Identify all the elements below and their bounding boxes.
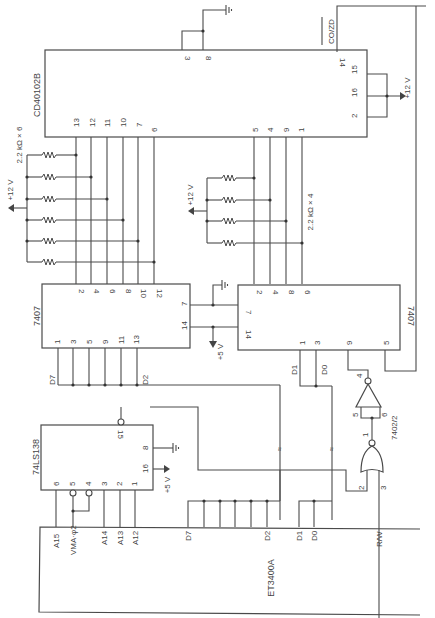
svg-text:6: 6 xyxy=(303,290,312,295)
svg-text:7407: 7407 xyxy=(32,306,42,326)
resistor-label-right: 2.2 kΩ × 4 xyxy=(306,193,315,230)
chip-7407-right: 7407 2 4 8 6 7 14 1 3 9 5 D1 D0 xyxy=(238,285,416,375)
break-mark: ≈ xyxy=(275,447,284,452)
svg-text:7: 7 xyxy=(135,122,144,127)
arrow-icon xyxy=(164,465,170,473)
chip-74ls138: 74LS138 15 8 16 +5 V 6 5 4 3 2 1 xyxy=(31,407,179,527)
svg-text:6: 6 xyxy=(150,127,159,132)
svg-text:3: 3 xyxy=(100,481,109,486)
svg-text:74LS138: 74LS138 xyxy=(31,439,41,475)
ground-icon xyxy=(173,443,179,453)
svg-text:D0: D0 xyxy=(310,530,319,541)
svg-text:7: 7 xyxy=(244,310,253,315)
svg-text:+5 V: +5 V xyxy=(163,476,172,493)
svg-text:VMA·φ2: VMA·φ2 xyxy=(69,525,78,555)
svg-text:13: 13 xyxy=(132,335,141,344)
svg-text:1: 1 xyxy=(297,127,306,132)
svg-text:A12: A12 xyxy=(131,530,140,545)
svg-text:3: 3 xyxy=(69,339,78,344)
gate-label: 7402/2 xyxy=(390,415,399,440)
svg-text:+12 V: +12 V xyxy=(6,179,15,201)
d-lines: ≈ ≈ xyxy=(275,385,336,520)
chip-7407-left: 7407 2 4 6 8 10 12 1 3 5 9 11 13 7 14 D7… xyxy=(32,284,190,385)
svg-text:10: 10 xyxy=(139,289,148,298)
svg-text:D1: D1 xyxy=(295,530,304,541)
svg-text:16: 16 xyxy=(350,88,359,97)
supply-label: +12 V xyxy=(403,77,412,99)
svg-text:D1: D1 xyxy=(290,364,299,375)
svg-text:14: 14 xyxy=(338,58,347,67)
svg-text:2: 2 xyxy=(115,481,124,486)
svg-text:4: 4 xyxy=(92,289,101,294)
svg-text:8: 8 xyxy=(287,290,296,295)
svg-text:12: 12 xyxy=(88,118,97,127)
power-between: +5 V xyxy=(190,280,238,360)
svg-text:2: 2 xyxy=(357,485,366,490)
svg-text:6: 6 xyxy=(108,289,117,294)
svg-text:7407: 7407 xyxy=(406,306,416,326)
svg-text:16: 16 xyxy=(141,464,150,473)
svg-text:D7: D7 xyxy=(184,530,193,541)
resistor-array-left: +12 V 2.2 kΩ × 6 xyxy=(6,126,156,265)
arrow-icon xyxy=(188,207,194,215)
svg-text:8: 8 xyxy=(204,56,213,61)
svg-text:2: 2 xyxy=(255,290,264,295)
svg-text:9: 9 xyxy=(282,127,291,132)
resistor-label-left: 2.2 kΩ × 6 xyxy=(15,126,24,163)
svg-text:2: 2 xyxy=(77,289,86,294)
svg-text:2: 2 xyxy=(350,113,359,118)
svg-text:14: 14 xyxy=(180,321,189,330)
svg-text:7: 7 xyxy=(180,301,189,306)
svg-text:15: 15 xyxy=(350,65,359,74)
d-bus-lower xyxy=(188,470,332,527)
resistor-array-right: +12 V 2.2 kΩ × 4 xyxy=(186,175,315,246)
svg-text:3: 3 xyxy=(379,485,388,490)
chip-label-cd40102b: CD40102B xyxy=(32,73,42,117)
svg-text:A15: A15 xyxy=(52,533,61,548)
svg-text:4: 4 xyxy=(271,290,280,295)
svg-text:3: 3 xyxy=(313,340,322,345)
svg-text:1: 1 xyxy=(298,340,307,345)
arrow-icon xyxy=(8,204,14,212)
svg-text:D2: D2 xyxy=(263,530,272,541)
circuit-schematic: CD40102B 3 8 14 CO/ZD 15 16 2 +12 V 13 1… xyxy=(0,0,435,618)
cpu-et3400a: A15 VMA·φ2 A14 A13 A12 D7 D2 D1 D0 R/W E… xyxy=(39,525,420,615)
svg-text:6: 6 xyxy=(380,412,389,417)
svg-text:14: 14 xyxy=(244,330,253,339)
svg-text:3: 3 xyxy=(183,56,192,61)
svg-text:13: 13 xyxy=(72,118,81,127)
bus-right xyxy=(254,137,302,284)
svg-text:11: 11 xyxy=(117,335,126,344)
ground-icon xyxy=(222,280,228,290)
svg-text:10: 10 xyxy=(119,118,128,127)
svg-text:5: 5 xyxy=(85,339,94,344)
svg-text:+12 V: +12 V xyxy=(186,184,195,206)
svg-text:D0: D0 xyxy=(320,364,329,375)
svg-text:1: 1 xyxy=(130,481,139,486)
svg-text:9: 9 xyxy=(345,340,354,345)
chip-cd40102b: CD40102B 3 8 14 CO/ZD 15 16 2 +12 V 13 1… xyxy=(32,5,426,137)
ground-icon xyxy=(226,5,232,15)
cpu-label: ET3400A xyxy=(266,559,276,597)
svg-text:8: 8 xyxy=(141,445,150,450)
svg-text:9: 9 xyxy=(101,339,110,344)
break-mark: ≈ xyxy=(327,447,336,452)
svg-text:5: 5 xyxy=(382,340,391,345)
svg-text:12: 12 xyxy=(155,289,164,298)
svg-text:1: 1 xyxy=(361,432,370,437)
svg-text:11: 11 xyxy=(103,118,112,127)
svg-text:4: 4 xyxy=(355,373,364,378)
svg-text:D7: D7 xyxy=(48,374,57,385)
co-zd-label: CO/ZD xyxy=(327,19,336,44)
svg-text:5: 5 xyxy=(351,412,360,417)
svg-text:R/W: R/W xyxy=(375,531,384,547)
svg-text:D2: D2 xyxy=(141,374,150,385)
svg-text:15: 15 xyxy=(116,430,125,439)
svg-text:5: 5 xyxy=(68,481,77,486)
svg-text:5: 5 xyxy=(251,127,260,132)
svg-text:8: 8 xyxy=(124,289,133,294)
d-bus-right xyxy=(300,6,416,388)
svg-text:4: 4 xyxy=(266,127,275,132)
d-bus-upper xyxy=(58,348,280,387)
svg-text:1: 1 xyxy=(53,339,62,344)
